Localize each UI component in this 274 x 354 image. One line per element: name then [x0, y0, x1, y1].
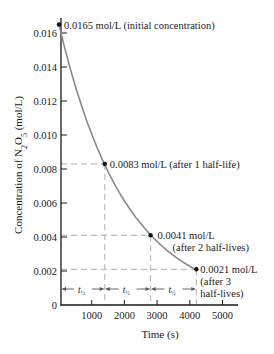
point-annotation: (after 3 — [200, 276, 231, 288]
y-tick-label: 0.006 — [33, 198, 57, 209]
half-life-label: t½ — [78, 285, 86, 296]
y-axis-title: Concentration of N2O5 (mol/L) — [12, 96, 29, 234]
x-tick-label: 5000 — [212, 310, 233, 321]
y-tick-label: 0.008 — [33, 164, 57, 175]
point-annotation: 0.0165 mol/L (initial concentration) — [64, 20, 215, 32]
data-point — [103, 162, 107, 166]
half-life-label: t½ — [168, 285, 176, 296]
y-tick-label: 0.016 — [33, 28, 57, 39]
y-tick-label: 0.010 — [33, 130, 57, 141]
point-annotation: half-lives) — [200, 288, 244, 300]
x-tick-label: 4000 — [179, 310, 200, 321]
half-life-label: t½ — [123, 285, 131, 296]
x-tick-label: 2000 — [114, 310, 135, 321]
data-point — [57, 22, 61, 26]
x-axis-title: Time (s) — [141, 328, 179, 341]
y-tick-label: 0.012 — [33, 96, 57, 107]
point-annotation: (after 2 half-lives) — [173, 242, 250, 254]
x-tick-label: 1000 — [81, 310, 102, 321]
x-tick-label: 3000 — [147, 310, 168, 321]
data-point — [148, 233, 152, 237]
y-tick-label: 0 — [52, 300, 57, 311]
data-point — [194, 267, 198, 271]
point-annotation: 0.0041 mol/L — [158, 230, 215, 241]
y-tick-label: 0.004 — [33, 232, 57, 243]
y-tick-label: 0.002 — [33, 266, 57, 277]
half-life-chart: 00.0020.0040.0060.0080.0100.0120.0140.01… — [0, 0, 274, 354]
point-annotation: 0.0083 mol/L (after 1 half-life) — [110, 159, 240, 171]
y-tick-label: 0.014 — [33, 62, 57, 73]
half-life-markers: t½t½t½ — [62, 285, 195, 296]
point-annotation: 0.0021 mol/L — [200, 264, 257, 275]
point-annotations: 0.0165 mol/L (initial concentration)0.00… — [64, 20, 258, 301]
